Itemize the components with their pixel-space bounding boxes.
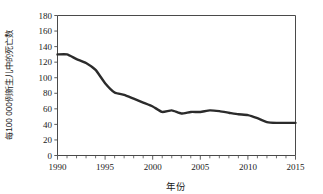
y-tick-label: 140 — [39, 42, 53, 52]
line-chart: 020406080100120140160180 199019952000200… — [0, 0, 323, 194]
y-tick-label: 0 — [48, 151, 53, 161]
y-tick-label: 180 — [39, 11, 53, 21]
chart-container: 020406080100120140160180 199019952000200… — [0, 0, 323, 194]
x-tick-label: 1995 — [96, 162, 115, 172]
y-tick-label: 60 — [43, 104, 53, 114]
x-tick-label: 1990 — [49, 162, 68, 172]
x-axis-title: 年份 — [166, 181, 186, 192]
x-tick-label: 2000 — [144, 162, 163, 172]
y-tick-label: 40 — [43, 120, 53, 130]
x-tick-label: 2010 — [239, 162, 258, 172]
y-tick-label: 100 — [39, 73, 53, 83]
y-axis-title: 每100 000例新生儿中的死亡数 — [4, 30, 14, 140]
y-tick-label: 20 — [43, 135, 53, 145]
y-tick-label: 160 — [39, 26, 53, 36]
y-tick-label: 80 — [43, 88, 53, 98]
y-tick-label: 120 — [39, 57, 53, 67]
x-tick-label: 2005 — [191, 162, 210, 172]
x-tick-label: 2015 — [287, 162, 306, 172]
